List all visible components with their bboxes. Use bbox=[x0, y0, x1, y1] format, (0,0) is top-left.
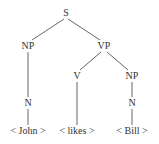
edge-s-np bbox=[32, 19, 64, 40]
edge-vp-v bbox=[80, 52, 101, 70]
node-vp: VP bbox=[98, 41, 111, 51]
leaf-bill: < Bill > bbox=[116, 126, 147, 136]
node-n-left: N bbox=[24, 98, 31, 108]
node-s: S bbox=[63, 8, 69, 18]
node-v: V bbox=[73, 71, 80, 81]
edge-vp-np-right bbox=[107, 52, 128, 70]
node-np-right: NP bbox=[126, 71, 139, 81]
node-n-right: N bbox=[128, 98, 135, 108]
syntax-tree: S NP VP N V NP N < John > < likes > < Bi… bbox=[0, 0, 159, 144]
leaf-likes: < likes > bbox=[59, 126, 94, 136]
edge-s-vp bbox=[68, 19, 100, 40]
node-np-left: NP bbox=[22, 41, 35, 51]
leaf-john: < John > bbox=[10, 126, 45, 136]
